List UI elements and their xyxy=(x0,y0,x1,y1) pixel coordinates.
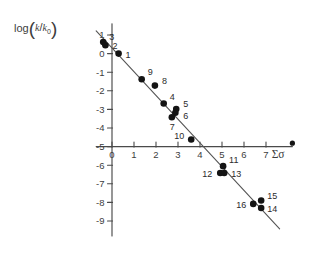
data-point-marker xyxy=(221,170,228,177)
data-point-label: 2 xyxy=(112,41,117,51)
y-tick-label: -5 xyxy=(96,141,104,152)
plot-canvas: 10-1-2-3-4-5-6-7-8-901234567 12345678910… xyxy=(0,0,312,272)
x-tick-label: 3 xyxy=(175,149,180,160)
data-point-label: 15 xyxy=(267,191,277,201)
x-axis-arrow-icon xyxy=(290,141,295,146)
data-point-label: 16 xyxy=(236,200,246,210)
y-tick-label: -1 xyxy=(96,67,104,78)
data-point-label: 10 xyxy=(174,131,184,141)
y-tick-label: -8 xyxy=(96,197,104,208)
data-point-marker xyxy=(169,114,176,121)
x-axis-label-group: Σσ xyxy=(272,148,286,160)
x-tick-label: 5 xyxy=(219,149,224,160)
data-point-label: 12 xyxy=(202,169,212,179)
data-point-marker xyxy=(138,76,145,83)
data-point-label: 14 xyxy=(267,204,277,214)
data-point-label: 9 xyxy=(148,67,153,77)
data-point-label: 6 xyxy=(183,111,188,121)
y-tick-label: 0 xyxy=(99,48,104,59)
x-tick-label: 2 xyxy=(153,149,158,160)
data-point-marker xyxy=(152,82,159,89)
hammett-plot-figure: log(k/k0) 10-1-2-3-4-5-6-7-8-901234567 1… xyxy=(0,0,312,272)
data-point-label: 1 xyxy=(126,50,131,60)
data-point-label: 5 xyxy=(183,99,188,109)
data-point-label: 8 xyxy=(162,76,167,86)
x-tick-label: 1 xyxy=(131,149,136,160)
x-tick-label: 4 xyxy=(197,149,202,160)
data-point-marker xyxy=(160,100,167,107)
y-tick-label: -6 xyxy=(96,160,104,171)
regression-line-group xyxy=(96,31,279,229)
data-point-marker xyxy=(188,136,195,143)
x-tick-label: 0 xyxy=(109,149,114,160)
data-point-marker xyxy=(100,39,107,46)
y-tick-label: -9 xyxy=(96,215,104,226)
data-points-group: 12345678910111213141516 xyxy=(100,32,277,214)
data-point-marker xyxy=(250,201,257,208)
data-point-label: 4 xyxy=(170,92,175,102)
data-point-marker xyxy=(115,50,122,57)
x-tick-label: 6 xyxy=(241,149,246,160)
data-point-label: 11 xyxy=(229,155,238,165)
regression-line xyxy=(96,31,279,229)
data-point-marker xyxy=(220,163,227,170)
x-tick-label: 7 xyxy=(263,149,268,160)
y-tick-label: -3 xyxy=(96,104,104,115)
data-point-marker xyxy=(258,197,265,204)
data-point-label: 3 xyxy=(109,32,114,42)
data-point-marker xyxy=(258,205,265,212)
x-axis-label: Σσ xyxy=(272,148,286,160)
y-tick-label: -4 xyxy=(96,122,104,133)
y-tick-label: -7 xyxy=(96,178,104,189)
y-tick-label: -2 xyxy=(96,85,104,96)
data-point-label: 13 xyxy=(231,169,241,179)
